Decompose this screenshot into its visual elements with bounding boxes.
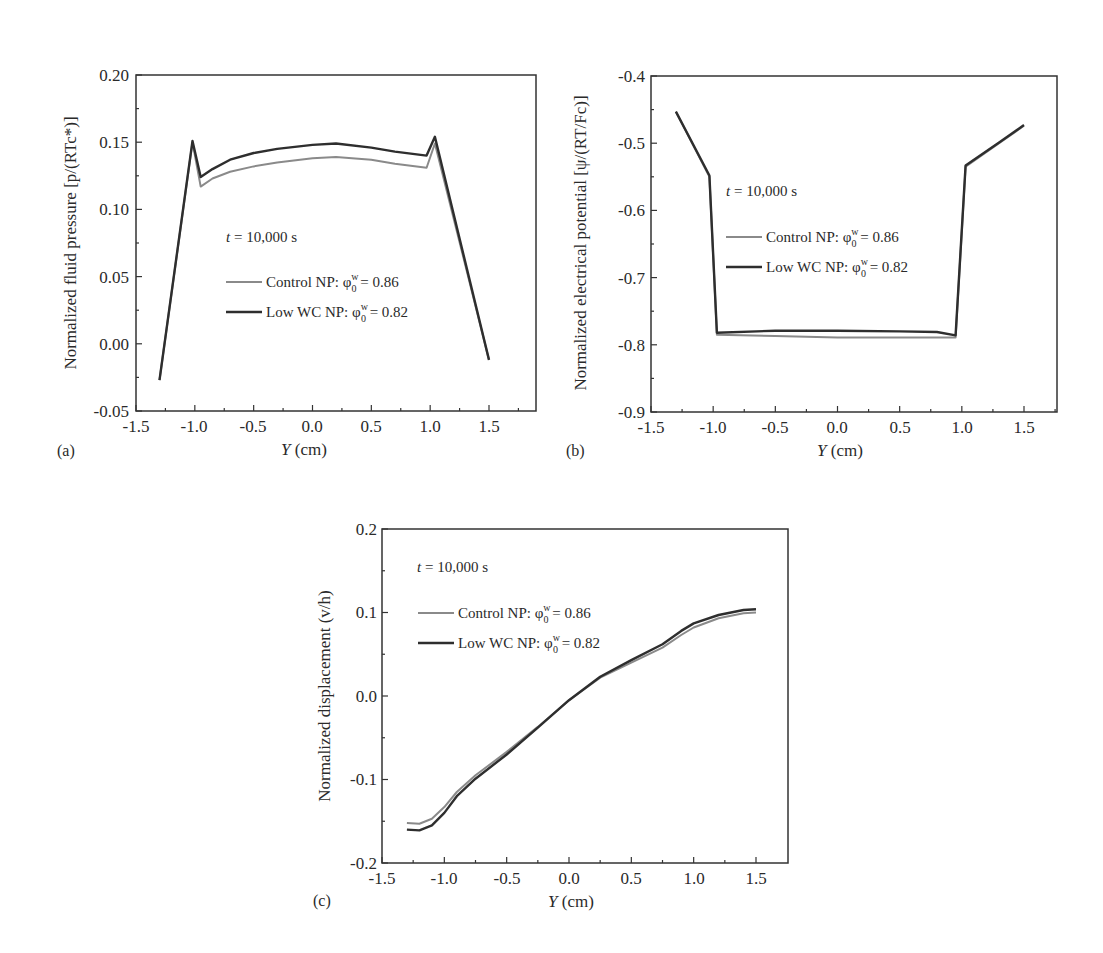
x-tick: -0.5 xyxy=(494,869,521,888)
series-low-wc-np xyxy=(160,137,490,380)
annotation-time-b: t = 10,000 s xyxy=(726,183,797,199)
y-tick: 0.20 xyxy=(99,66,129,85)
y-tick: -0.8 xyxy=(618,336,645,355)
y-tick: 0.1 xyxy=(356,603,377,622)
x-tick: 0.0 xyxy=(826,418,847,437)
plot-frame-a xyxy=(136,75,536,411)
y-tick: -0.5 xyxy=(618,134,645,153)
panel-label-b: (b) xyxy=(566,442,585,460)
legend-c: Control NP: φw0 = 0.86 Low WC NP: φw0 = … xyxy=(418,602,600,655)
figure-canvas: -0.05 0.00 0.05 0.10 0.15 0.20 -1.5 -1.0… xyxy=(0,0,1103,953)
y-tick: 0.2 xyxy=(356,520,377,539)
legend-label-lowwc: Low WC NP: φw0 = 0.82 xyxy=(766,256,908,279)
legend-label-control: Control NP: φw0 = 0.86 xyxy=(766,226,899,249)
y-tick: 0.15 xyxy=(99,133,129,152)
y-tick-labels-b: -0.9 -0.8 -0.7 -0.6 -0.5 -0.4 xyxy=(618,67,645,422)
y-tick: 0.05 xyxy=(99,268,129,287)
annotation-time-a: t = 10,000 s xyxy=(226,229,297,245)
x-tick: -1.0 xyxy=(700,418,727,437)
x-tick: -1.5 xyxy=(123,417,150,436)
x-tick: -0.5 xyxy=(240,417,267,436)
legend-label-lowwc: Low WC NP: φw0 = 0.82 xyxy=(266,301,408,324)
x-tick: 0.5 xyxy=(889,418,910,437)
panel-c: -0.2 -0.1 0.0 0.1 0.2 -1.5 -1.0 -0.5 0.0… xyxy=(313,520,788,911)
panel-a: -0.05 0.00 0.05 0.10 0.15 0.20 -1.5 -1.0… xyxy=(57,66,536,460)
x-tick: 1.5 xyxy=(1013,418,1034,437)
y-axis-title-a: Normalized fluid pressure [p/(RTc*)] xyxy=(61,116,80,369)
y-tick: -0.7 xyxy=(618,269,645,288)
y-tick-labels-c: -0.2 -0.1 0.0 0.1 0.2 xyxy=(350,520,377,873)
x-tick-labels-b: -1.5 -1.0 -0.5 0.0 0.5 1.0 1.5 xyxy=(638,418,1035,437)
x-tick: -1.0 xyxy=(181,417,208,436)
x-tick-labels-c: -1.5 -1.0 -0.5 0.0 0.5 1.0 1.5 xyxy=(369,869,767,888)
x-tick: 0.5 xyxy=(620,869,641,888)
y-tick: -0.1 xyxy=(350,770,377,789)
panel-label-c: (c) xyxy=(313,892,331,910)
legend-a: Control NP: φw0 = 0.86 Low WC NP: φw0 = … xyxy=(226,271,408,324)
x-tick: 0.5 xyxy=(360,417,381,436)
x-tick: -0.5 xyxy=(762,418,789,437)
series-control-np xyxy=(676,112,1024,338)
legend-b: Control NP: φw0 = 0.86 Low WC NP: φw0 = … xyxy=(726,226,908,279)
legend-label-control: Control NP: φw0 = 0.86 xyxy=(458,602,591,625)
x-axis-title-c: Y (cm) xyxy=(548,892,594,911)
y-axis-title-b: Normalized electrical potential [ψ/(RT/F… xyxy=(571,95,590,390)
y-tick: 0.10 xyxy=(99,200,129,219)
x-tick-labels-a: -1.5 -1.0 -0.5 0.0 0.5 1.0 1.5 xyxy=(123,417,500,436)
y-tick-labels-a: -0.05 0.00 0.05 0.10 0.15 0.20 xyxy=(94,66,129,421)
x-tick: 1.5 xyxy=(478,417,499,436)
x-tick: -1.5 xyxy=(369,869,396,888)
x-tick: 1.0 xyxy=(951,418,972,437)
x-tick: -1.0 xyxy=(431,869,458,888)
y-tick: 0.00 xyxy=(99,335,129,354)
y-tick: -0.4 xyxy=(618,67,645,86)
x-axis-title-a: Y (cm) xyxy=(281,440,327,459)
series-lines-a xyxy=(160,137,490,380)
x-tick: 1.0 xyxy=(419,417,440,436)
legend-label-lowwc: Low WC NP: φw0 = 0.82 xyxy=(458,632,600,655)
y-tick: -0.6 xyxy=(618,201,645,220)
x-tick: -1.5 xyxy=(638,418,665,437)
x-tick: 1.5 xyxy=(745,869,766,888)
y-tick: 0.0 xyxy=(356,687,377,706)
x-tick: 1.0 xyxy=(683,869,704,888)
series-lines-b xyxy=(676,112,1024,338)
panel-label-a: (a) xyxy=(57,442,75,460)
x-tick: 0.0 xyxy=(301,417,322,436)
annotation-time-c: t = 10,000 s xyxy=(417,559,488,575)
panel-b: -0.9 -0.8 -0.7 -0.6 -0.5 -0.4 -1.5 -1.0 … xyxy=(566,67,1057,460)
x-tick: 0.0 xyxy=(558,869,579,888)
series-control-np xyxy=(160,142,490,380)
series-low-wc-np xyxy=(676,112,1024,336)
x-axis-title-b: Y (cm) xyxy=(817,441,863,460)
y-axis-title-c: Normalized displacement (v/h) xyxy=(315,590,334,801)
legend-label-control: Control NP: φw0 = 0.86 xyxy=(266,271,399,294)
